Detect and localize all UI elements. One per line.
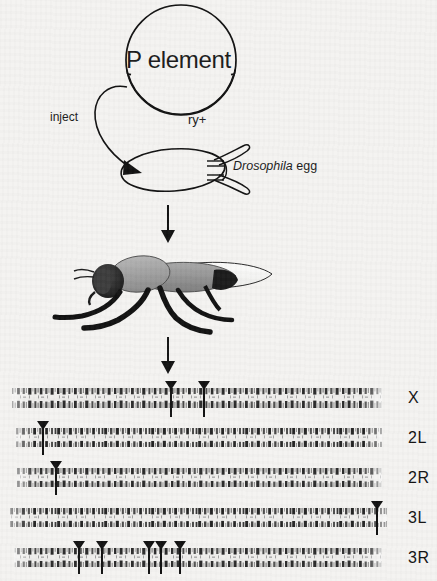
figure-canvas: P element ry+ inject Drosophila egg X 2L… <box>0 0 437 581</box>
inject-arrow <box>95 86 142 175</box>
down-arrow-to-chromosomes <box>161 337 175 374</box>
diagram-svg <box>0 0 437 581</box>
chromosome-X <box>12 381 382 417</box>
chromosome-3R <box>14 541 382 574</box>
inject-label: inject <box>50 110 78 124</box>
chromosome-label-3R: 3R <box>408 549 429 567</box>
chromosome-label-X: X <box>408 389 419 407</box>
chromosome-label-2L: 2L <box>408 429 427 447</box>
ry-plus-label: ry+ <box>188 112 206 127</box>
drosophila-egg <box>120 145 250 195</box>
chromosome-2R <box>17 461 382 495</box>
chromosome-label-2R: 2R <box>408 469 429 487</box>
p-element-title: P element <box>126 46 231 74</box>
chromosome-label-3L: 3L <box>408 509 427 527</box>
egg-label-species: Drosophila <box>233 159 293 173</box>
down-arrow-to-fly <box>161 205 175 243</box>
chromosome-2L <box>16 421 382 455</box>
egg-label-noun: egg <box>293 159 317 173</box>
chromosome-3L <box>10 501 387 535</box>
drosophila-egg-label: Drosophila egg <box>233 159 317 173</box>
adult-drosophila <box>55 253 272 332</box>
